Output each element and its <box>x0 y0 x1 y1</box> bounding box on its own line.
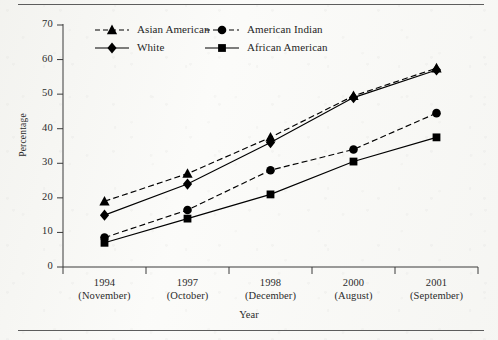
axes-layer <box>57 24 478 274</box>
marker-diamond <box>432 64 441 75</box>
legend-label-asian-american: Asian American <box>137 23 210 35</box>
legend-label-african-american: African American <box>247 41 328 53</box>
marker-triangle <box>99 196 109 206</box>
x-category-month: (September) <box>395 289 478 302</box>
marker-circle <box>183 206 192 215</box>
legend-label-white: White <box>137 41 164 53</box>
marker-circle <box>349 145 358 154</box>
x-category-year: 2000 <box>312 276 395 289</box>
marker-square <box>350 158 358 166</box>
y-tick-label: 20 <box>15 191 53 202</box>
x-category-label: 1998(December) <box>229 276 312 302</box>
line-chart: Percentage Year 010203040506070 1994(Nov… <box>0 0 498 340</box>
marker-circle <box>266 166 275 175</box>
x-category-month: (November) <box>63 289 146 302</box>
x-category-year: 2001 <box>395 276 478 289</box>
x-axis-title: Year <box>0 309 498 320</box>
marker-diamond <box>183 178 192 189</box>
series-line <box>105 137 437 242</box>
marker-square <box>267 191 275 199</box>
series-african-american <box>101 133 441 246</box>
x-category-month: (December) <box>229 289 312 302</box>
y-tick-label: 50 <box>15 87 53 98</box>
marker-diamond <box>100 210 109 221</box>
marker-triangle <box>182 168 192 178</box>
y-tick-label: 40 <box>15 122 53 133</box>
y-tick-label: 60 <box>15 53 53 64</box>
series-line <box>105 113 437 237</box>
x-category-year: 1998 <box>229 276 312 289</box>
series-asian-american <box>99 63 441 206</box>
series-american-indian <box>100 109 441 242</box>
x-category-label: 1997(October) <box>146 276 229 302</box>
y-tick-label: 70 <box>15 18 53 29</box>
legend-label-american-indian: American Indian <box>247 23 323 35</box>
marker-square <box>433 133 441 141</box>
y-tick-label: 10 <box>15 225 53 236</box>
x-category-year: 1997 <box>146 276 229 289</box>
marker-square <box>184 215 192 223</box>
x-category-year: 1994 <box>63 276 146 289</box>
y-tick-label: 0 <box>15 260 53 271</box>
x-category-month: (October) <box>146 289 229 302</box>
marker-circle <box>432 109 441 118</box>
x-category-label: 2001(September) <box>395 276 478 302</box>
page-background: Percentage Year 010203040506070 1994(Nov… <box>0 0 498 340</box>
x-category-month: (August) <box>312 289 395 302</box>
series-layer <box>99 63 441 247</box>
marker-diamond <box>349 92 358 103</box>
marker-square <box>101 239 109 247</box>
x-category-label: 2000(August) <box>312 276 395 302</box>
x-category-label: 1994(November) <box>63 276 146 302</box>
y-tick-label: 30 <box>15 156 53 167</box>
